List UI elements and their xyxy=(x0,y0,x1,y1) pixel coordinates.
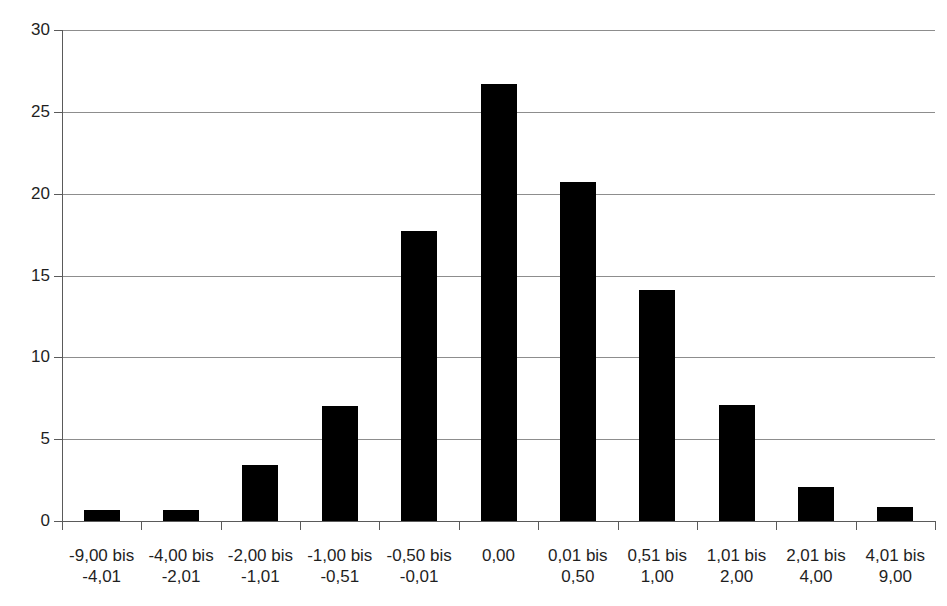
bar xyxy=(322,406,358,521)
x-axis-label: 2,01 bis 4,00 xyxy=(770,545,861,587)
x-axis-label: 0,00 xyxy=(453,545,544,566)
bar xyxy=(798,487,834,521)
x-axis-label: 1,01 bis 2,00 xyxy=(691,545,782,587)
x-tick xyxy=(935,521,936,530)
x-axis-label: 4,01 bis 9,00 xyxy=(850,545,941,587)
x-axis-label: -9,00 bis -4,01 xyxy=(56,545,147,587)
y-tick-10 xyxy=(54,357,62,358)
y-tick-0 xyxy=(54,521,62,522)
bar xyxy=(560,182,596,521)
y-tick-20 xyxy=(54,194,62,195)
y-axis-labels: 30 25 20 15 10 5 0 xyxy=(0,0,50,606)
bar xyxy=(84,510,120,521)
bar xyxy=(481,84,517,521)
bar xyxy=(401,231,437,521)
y-axis-label-15: 15 xyxy=(6,267,50,284)
y-axis-label-25: 25 xyxy=(6,103,50,120)
x-axis-label: 0,51 bis 1,00 xyxy=(612,545,703,587)
x-tick xyxy=(697,521,698,530)
x-tick xyxy=(62,521,63,530)
bar xyxy=(163,510,199,521)
x-axis-label: -2,00 bis -1,01 xyxy=(215,545,306,587)
y-tick-5 xyxy=(54,439,62,440)
bar xyxy=(877,507,913,521)
bar xyxy=(639,290,675,521)
gridline-0-baseline xyxy=(62,521,935,522)
y-tick-15 xyxy=(54,276,62,277)
y-tick-25 xyxy=(54,112,62,113)
x-tick xyxy=(618,521,619,530)
bars-layer xyxy=(62,30,935,521)
x-tick xyxy=(856,521,857,530)
x-tick xyxy=(141,521,142,530)
bar xyxy=(242,465,278,521)
y-axis-label-10: 10 xyxy=(6,348,50,365)
x-axis-label: -0,50 bis -0,01 xyxy=(373,545,464,587)
y-tick-30 xyxy=(54,30,62,31)
x-tick xyxy=(221,521,222,530)
x-tick xyxy=(776,521,777,530)
x-axis-label: -4,00 bis -2,01 xyxy=(135,545,226,587)
chart-title xyxy=(0,0,947,6)
x-tick xyxy=(459,521,460,530)
y-axis-label-30: 30 xyxy=(6,21,50,38)
bar-chart: 30 25 20 15 10 5 0 -9,00 bis -4,01-4,00 … xyxy=(0,0,947,606)
y-axis-label-0: 0 xyxy=(6,512,50,529)
y-axis-label-20: 20 xyxy=(6,185,50,202)
x-tick xyxy=(300,521,301,530)
y-axis-label-5: 5 xyxy=(6,430,50,447)
x-axis-label: -1,00 bis -0,51 xyxy=(294,545,385,587)
x-axis-label: 0,01 bis 0,50 xyxy=(532,545,623,587)
bar xyxy=(719,405,755,521)
x-tick xyxy=(538,521,539,530)
x-tick xyxy=(379,521,380,530)
